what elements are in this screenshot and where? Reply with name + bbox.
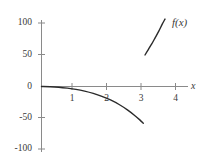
x-axis-tick-label-3: 3 [139,94,144,104]
x-axis-tick-label-1: 1 [70,94,75,104]
y-axis-tick-label-neg50: -50 [4,113,32,123]
x-axis-tick-label-4: 4 [173,94,178,104]
function-curve-left-branch [42,87,144,124]
y-axis-tick-label-0: 0 [8,82,32,92]
x-axis-label: x [191,81,195,91]
y-axis-tick-label-50: 50 [8,50,32,60]
x-axis-tick-label-2: 2 [104,94,109,104]
y-axis-tick-label-100: 100 [8,18,32,28]
function-curve-right-branch [145,19,165,55]
function-series-label: f(x) [172,17,187,28]
function-plot-figure: 100 50 0 -50 -100 1 2 3 4 x f(x) [0,0,201,166]
y-axis-tick-label-neg100: -100 [2,144,32,154]
